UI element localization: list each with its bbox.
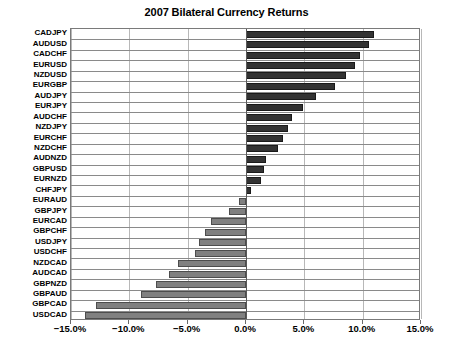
currency-returns-chart: 2007 Bilateral Currency Returns CADJPYAU… [0, 0, 453, 357]
y-label-eurusd: EURUSD [33, 60, 67, 70]
x-label-4: 5.0% [293, 323, 315, 334]
plot-area [70, 28, 420, 320]
zero-axis-line [71, 29, 419, 319]
zero-line [246, 29, 247, 319]
y-label-gbpchf: GBPCHF [33, 226, 67, 236]
y-label-usdjpy: USDJPY [35, 237, 67, 247]
x-axis-labels: −15.0%−10.0%−5.0%0.0%5.0%10.0%15.0% [0, 323, 453, 343]
y-label-gbpaud: GBPAUD [33, 289, 67, 299]
y-label-usdchf: USDCHF [34, 247, 67, 257]
y-label-euraud: EURAUD [33, 195, 67, 205]
y-label-audchf: AUDCHF [33, 112, 67, 122]
y-label-usdcad: USDCAD [33, 310, 67, 320]
y-label-audusd: AUDUSD [33, 39, 67, 49]
y-label-eurchf: EURCHF [34, 133, 67, 143]
y-label-nzdchf: NZDCHF [34, 143, 67, 153]
y-label-gbpusd: GBPUSD [33, 164, 67, 174]
x-label-0: −15.0% [54, 323, 87, 334]
y-label-eurgbp: EURGBP [33, 80, 67, 90]
y-label-eurcad: EURCAD [33, 216, 67, 226]
y-label-audcad: AUDCAD [32, 268, 67, 278]
y-label-chfjpy: CHFJPY [35, 185, 67, 195]
y-label-cadjpy: CADJPY [35, 28, 67, 38]
x-label-3: 0.0% [234, 323, 256, 334]
y-label-audnzd: AUDNZD [33, 153, 67, 163]
x-label-1: −10.0% [112, 323, 145, 334]
x-label-2: −5.0% [173, 323, 200, 334]
y-label-nzdjpy: NZDJPY [35, 122, 67, 132]
y-label-gbpnzd: GBPNZD [33, 279, 67, 289]
x-label-6: 15.0% [407, 323, 434, 334]
y-label-nzdcad: NZDCAD [33, 258, 67, 268]
y-label-audjpy: AUDJPY [35, 91, 67, 101]
y-label-eurnzd: EURNZD [34, 174, 67, 184]
y-label-cadchf: CADCHF [33, 49, 67, 59]
chart-title: 2007 Bilateral Currency Returns [0, 6, 453, 18]
gridline-6 [421, 29, 422, 319]
y-axis-labels: CADJPYAUDUSDCADCHFEURUSDNZDUSDEURGBPAUDJ… [0, 28, 67, 320]
y-label-gbpjpy: GBPJPY [35, 206, 67, 216]
y-label-nzdusd: NZDUSD [34, 70, 67, 80]
y-label-eurjpy: EURJPY [35, 101, 67, 111]
x-label-5: 10.0% [348, 323, 375, 334]
y-label-gbpcad: GBPCAD [32, 299, 67, 309]
